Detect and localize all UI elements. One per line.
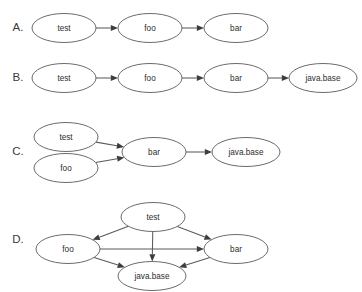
graph-node-javabase[interactable]: java.base xyxy=(212,138,280,167)
edge-line xyxy=(94,257,118,265)
arrowhead-icon xyxy=(282,75,289,81)
node-label: test xyxy=(146,213,160,222)
arrowhead-icon xyxy=(111,75,118,81)
edge-line xyxy=(99,226,128,237)
graph-node-foo[interactable]: foo xyxy=(118,14,182,43)
edge-line xyxy=(96,159,118,163)
panel-b: B.testfoobarjava.base xyxy=(13,64,357,93)
node-label: test xyxy=(57,74,71,83)
panel-d: D.testfoobarjava.base xyxy=(12,203,268,291)
edge-test-to-foo xyxy=(93,226,129,240)
graph-node-bar[interactable]: bar xyxy=(122,138,186,167)
edge-foo-to-bar xyxy=(96,156,125,163)
node-label: bar xyxy=(230,74,242,83)
node-label: foo xyxy=(144,24,156,33)
arrowhead-icon xyxy=(117,262,125,268)
graph-node-test[interactable]: test xyxy=(34,123,98,152)
arrowhead-icon xyxy=(204,234,212,240)
node-label: java.base xyxy=(227,148,263,157)
dependency-graph-figure: A.testfoobarB.testfoobarjava.baseC.testf… xyxy=(0,0,362,292)
graph-node-foo[interactable]: foo xyxy=(34,154,98,183)
node-label: bar xyxy=(230,245,242,254)
node-label: foo xyxy=(144,74,156,83)
node-label: test xyxy=(57,24,71,33)
graph-node-test[interactable]: test xyxy=(121,203,185,232)
panel-c: C.testfoobarjava.base xyxy=(12,123,280,183)
panel-letter-label: A. xyxy=(13,21,24,33)
edge-foo-to-bar xyxy=(182,25,204,31)
node-label: test xyxy=(59,133,73,142)
node-label: java.base xyxy=(304,74,340,83)
edge-line xyxy=(186,257,210,265)
graph-node-test[interactable]: test xyxy=(32,14,96,43)
arrowhead-icon xyxy=(197,25,204,31)
arrowhead-icon xyxy=(197,75,204,81)
edge-line xyxy=(177,226,205,237)
edge-bar-to-javabase xyxy=(186,149,212,155)
arrowhead-icon xyxy=(197,246,204,252)
arrowhead-icon xyxy=(93,234,101,240)
graph-node-bar[interactable]: bar xyxy=(204,14,268,43)
panel-letter-label: B. xyxy=(13,71,24,83)
graph-node-bar[interactable]: bar xyxy=(204,64,268,93)
edge-test-to-bar xyxy=(96,142,124,149)
arrowhead-icon xyxy=(111,25,118,31)
panel-letter-label: C. xyxy=(12,145,24,157)
edge-test-to-foo xyxy=(96,25,118,31)
edge-bar-to-javabase xyxy=(179,257,210,268)
node-label: bar xyxy=(148,148,160,157)
panel-letter-label: D. xyxy=(12,233,24,245)
arrowhead-icon xyxy=(205,149,212,155)
graph-node-javabase[interactable]: java.base xyxy=(118,262,186,291)
arrowhead-icon xyxy=(149,254,155,261)
edge-foo-to-bar xyxy=(182,75,204,81)
node-label: java.base xyxy=(133,272,169,281)
graph-node-test[interactable]: test xyxy=(32,64,96,93)
arrowhead-icon xyxy=(179,262,187,268)
graph-node-foo[interactable]: foo xyxy=(118,64,182,93)
node-label: foo xyxy=(62,245,74,254)
edge-foo-to-javabase xyxy=(94,257,125,268)
graph-node-foo[interactable]: foo xyxy=(36,235,100,264)
edge-test-to-bar xyxy=(177,226,211,239)
node-label: foo xyxy=(60,164,72,173)
edge-test-to-javabase xyxy=(149,232,155,262)
edge-bar-to-javabase xyxy=(268,75,289,81)
graph-node-javabase[interactable]: java.base xyxy=(289,64,357,93)
panel-a: A.testfoobar xyxy=(13,14,268,43)
graph-node-bar[interactable]: bar xyxy=(204,235,268,264)
edge-test-to-foo xyxy=(96,75,118,81)
node-label: bar xyxy=(230,24,242,33)
edge-line xyxy=(96,142,117,146)
